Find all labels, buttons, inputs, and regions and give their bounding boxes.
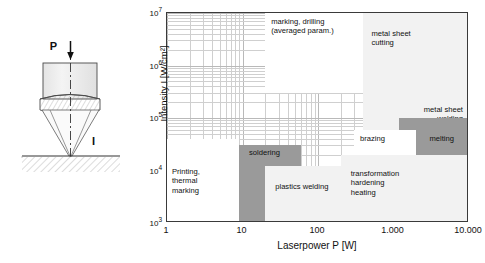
intensity-label: I xyxy=(92,135,95,147)
x-axis-title: Laserpower P [W] xyxy=(166,240,468,251)
power-label: P xyxy=(50,40,57,52)
y-tick-label: 103 xyxy=(136,216,162,228)
region-transformation-hardening-heating: transformation hardening heating xyxy=(341,155,468,222)
x-tick-label: 1 xyxy=(163,225,168,235)
x-tick-label: 1.000 xyxy=(381,225,404,235)
region-label-plastics-welding: plastics welding xyxy=(275,182,328,191)
region-label-printing-thermal-marking: Printing, thermal marking xyxy=(172,167,200,195)
plot-area: marking, drilling (averaged param.)metal… xyxy=(166,12,468,222)
laser-housing-tube xyxy=(43,63,97,99)
schematic-drawing: P I xyxy=(0,0,150,263)
region-plastics-welding: plastics welding xyxy=(265,166,341,222)
region-label-melting: melting xyxy=(429,134,453,143)
region-label-transformation-hardening-heating: transformation hardening heating xyxy=(351,169,400,197)
workpiece-body xyxy=(22,156,120,172)
region-brazing: brazing xyxy=(354,130,416,155)
down-arrow-icon xyxy=(67,52,74,60)
region-label-metal-sheet-cutting: metal sheet cutting xyxy=(371,29,410,48)
x-tick-label: 10.000 xyxy=(454,225,482,235)
laser-process-chart: marking, drilling (averaged param.)metal… xyxy=(150,0,485,263)
y-tick-label: 104 xyxy=(136,164,162,176)
region-label-brazing: brazing xyxy=(360,134,385,143)
x-tick-label: 10 xyxy=(236,225,246,235)
region-label-soldering: soldering xyxy=(249,148,280,157)
laser-focusing-schematic: P I xyxy=(0,0,150,263)
region-printing-thermal-marking: Printing, thermal marking xyxy=(167,139,239,222)
region-label-marking-drilling: marking, drilling (averaged param.) xyxy=(271,17,333,36)
y-axis-title: Intensity I [W/cm²] xyxy=(158,9,169,159)
x-tick-label: 100 xyxy=(309,225,324,235)
